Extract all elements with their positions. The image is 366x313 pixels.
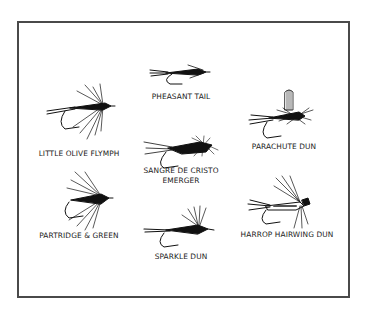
partridge-green-label: PARTRIDGE & GREEN: [39, 231, 118, 241]
parachute-dun-fly-illustration: [247, 88, 319, 140]
parachute-dun-label: PARACHUTE DUN: [252, 142, 316, 152]
sparkle-dun-label: SPARKLE DUN: [155, 252, 208, 262]
pheasant-tail-fly-illustration: [148, 60, 218, 85]
sparkle-dun-fly-illustration: [142, 205, 218, 249]
little-olive-flymph-fly-illustration: [45, 83, 117, 141]
sangre-de-cristo-emerger-label-line2: EMERGER: [162, 176, 199, 186]
sangre-de-cristo-emerger-fly-illustration: [142, 130, 222, 170]
partridge-green-fly-illustration: [57, 170, 115, 232]
pheasant-tail-label: PHEASANT TAIL: [152, 92, 211, 102]
sangre-de-cristo-emerger-label-line1: SANGRE DE CRISTO: [143, 166, 218, 176]
harrop-hairwing-dun-label: HARROP HAIRWING DUN: [241, 230, 334, 240]
harrop-hairwing-dun-fly-illustration: [246, 174, 318, 230]
little-olive-flymph-label: LITTLE OLIVE FLYMPH: [39, 149, 120, 159]
